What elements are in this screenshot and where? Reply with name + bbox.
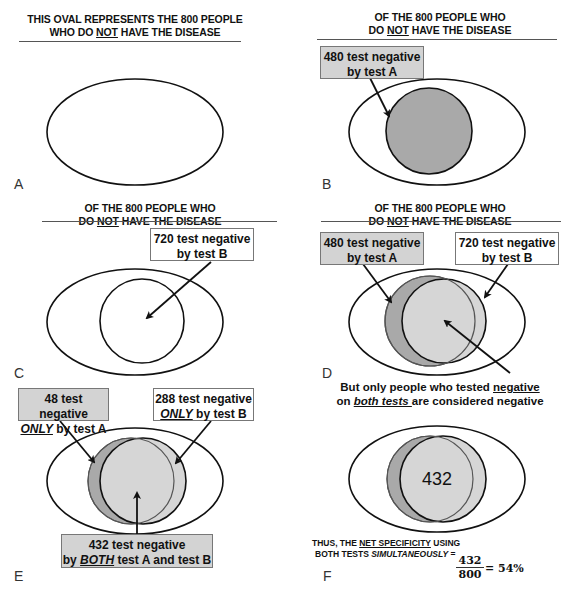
both-tests-label-box: 432 test negative by BOTH test A and tes… — [61, 534, 213, 568]
test-a-label-box: 480 test negative by test A — [320, 46, 424, 79]
box-text: ONLY by test B — [154, 407, 253, 422]
caption-line-1: But only people who tested negative — [330, 380, 550, 394]
box-text: by test B — [151, 247, 253, 262]
title-line-2: WHO DO NOT HAVE THE DISEASE — [20, 26, 250, 39]
panel-b-title: OF THE 800 PEOPLE WHO DO NOT HAVE THE DI… — [345, 11, 535, 37]
title-emphasis: NOT — [96, 26, 118, 38]
title-line-1: OF THE 800 PEOPLE WHO — [345, 11, 535, 24]
caption-text: on — [336, 395, 353, 407]
only-test-a-label-box: 48 test negative ONLY by test A — [18, 388, 109, 421]
box-text: 48 test negative — [19, 392, 108, 422]
caption-text: But only people who tested — [340, 381, 493, 393]
title-emphasis: NOT — [387, 24, 409, 36]
summary-line-1: THUS, THE NET SPECIFICITY USING — [312, 538, 462, 549]
title-text: HAVE THE DISEASE — [409, 24, 512, 36]
specificity-result: = 54% — [485, 562, 524, 575]
box-text: by test B — [193, 407, 247, 421]
caption-line-2: on both tests are considered negative — [330, 394, 550, 408]
box-emphasis: ONLY — [160, 407, 192, 421]
box-emphasis: BOTH — [80, 553, 114, 567]
summary-line-2: BOTH TESTS SIMULTANEOUSLY = — [312, 549, 462, 560]
box-text: by test A — [321, 251, 423, 266]
box-text: 720 test negative — [456, 236, 558, 251]
box-text: by test A — [53, 422, 107, 436]
specificity-fraction: 432 800 — [456, 554, 484, 581]
overlap-count: 432 — [422, 469, 452, 490]
fraction-numerator: 432 — [456, 554, 484, 568]
caption-emphasis: both tests — [354, 395, 412, 407]
title-line-1: OF THE 800 PEOPLE WHO — [60, 202, 240, 215]
caption-emphasis: negative — [493, 381, 540, 393]
summary-text: THUS, THE — [312, 538, 359, 548]
box-text: 432 test negative — [62, 538, 212, 553]
only-test-b-label-box: 288 test negative ONLY by test B — [153, 388, 254, 421]
panel-letter-d: D — [322, 365, 332, 381]
caption-text: are considered negative — [412, 395, 544, 407]
box-text: 480 test negative — [321, 50, 423, 65]
test-b-label-box: 720 test negative by test B — [150, 228, 254, 261]
net-specificity-label: THUS, THE NET SPECIFICITY USING BOTH TES… — [312, 538, 462, 560]
population-oval — [47, 79, 223, 185]
test-a-label-box: 480 test negative by test A — [320, 232, 424, 265]
fraction-denominator: 800 — [456, 568, 484, 581]
box-text: 720 test negative — [151, 232, 253, 247]
box-text: by — [63, 553, 80, 567]
panel-a-drawing — [47, 79, 223, 185]
panel-letter-f: F — [323, 568, 332, 584]
summary-text: BOTH TESTS — [315, 549, 371, 559]
divider — [321, 221, 561, 222]
title-text: WHO DO — [50, 26, 97, 38]
panel-letter-e: E — [14, 568, 23, 584]
test-b-negative-circle — [100, 279, 184, 363]
test-b-label-box: 720 test negative by test B — [455, 232, 559, 265]
panel-b-drawing — [349, 78, 525, 185]
panel-letter-c: C — [14, 365, 24, 381]
box-text: test A and test B — [114, 553, 211, 567]
summary-emphasis: SIMULTANEOUSLY — [371, 549, 448, 559]
panel-c-title: OF THE 800 PEOPLE WHO DO NOT HAVE THE DI… — [60, 202, 240, 228]
panel-d-title: OF THE 800 PEOPLE WHO DO NOT HAVE THE DI… — [345, 202, 535, 228]
title-line-1: OF THE 800 PEOPLE WHO — [345, 202, 535, 215]
divider — [317, 39, 557, 40]
box-text: by test B — [456, 251, 558, 266]
title-text: HAVE THE DISEASE — [118, 26, 221, 38]
test-a-negative-circle — [386, 88, 472, 174]
box-text: 288 test negative — [154, 392, 253, 407]
summary-text: = — [448, 549, 455, 559]
panel-e-drawing — [47, 421, 223, 534]
divider — [19, 41, 241, 42]
box-text: by BOTH test A and test B — [62, 553, 212, 568]
box-emphasis: ONLY — [20, 422, 52, 436]
summary-emphasis: NET SPECIFICITY — [359, 538, 431, 548]
divider — [42, 221, 277, 222]
panel-c-drawing — [47, 262, 223, 375]
title-line-1: THIS OVAL REPRESENTS THE 800 PEOPLE — [20, 13, 250, 26]
venn-diagram-drawings — [0, 0, 565, 589]
title-line-2: DO NOT HAVE THE DISEASE — [345, 24, 535, 37]
title-text: DO — [369, 24, 387, 36]
box-text: by test A — [321, 65, 423, 80]
box-text: 480 test negative — [321, 236, 423, 251]
panel-a-title: THIS OVAL REPRESENTS THE 800 PEOPLE WHO … — [20, 13, 250, 39]
panel-letter-b: B — [322, 176, 331, 192]
panel-d-caption: But only people who tested negative on b… — [330, 380, 550, 408]
summary-text: USING — [431, 538, 460, 548]
panel-letter-a: A — [14, 176, 23, 192]
panel-d-drawing — [349, 264, 525, 375]
box-text: ONLY by test A — [19, 422, 108, 437]
